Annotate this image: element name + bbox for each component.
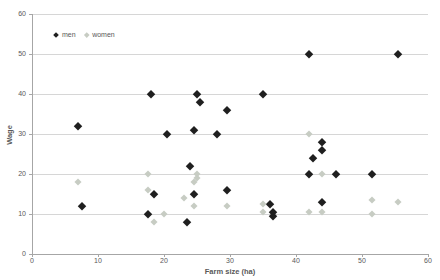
men-data-point-23: [319, 146, 327, 154]
men-diamond-icon: [53, 32, 59, 38]
women-data-point-18: [368, 196, 375, 203]
men-data-point-9: [190, 126, 198, 134]
y-tick-label-10: 10: [18, 210, 28, 218]
y-tick-label-40: 40: [18, 90, 28, 98]
chart-legend: men women: [54, 31, 115, 39]
men-data-point-7: [187, 162, 195, 170]
men-data-point-26: [368, 170, 376, 178]
men-data-point-0: [74, 122, 82, 130]
men-data-point-24: [319, 138, 327, 146]
men-data-point-4: [150, 190, 158, 198]
x-tick-label-30: 30: [226, 257, 234, 265]
men-data-point-20: [305, 50, 313, 58]
y-tick-label-30: 30: [18, 130, 28, 138]
men-data-point-19: [305, 170, 313, 178]
women-diamond-icon: [84, 33, 89, 38]
y-tick-label-60: 60: [18, 10, 28, 18]
men-data-point-16: [266, 200, 274, 208]
women-data-point-0: [75, 178, 82, 185]
men-data-point-5: [163, 130, 171, 138]
men-data-point-22: [319, 198, 327, 206]
y-tick-label-0: 0: [22, 250, 28, 258]
y-tick-label-50: 50: [18, 50, 28, 58]
x-tick-label-20: 20: [160, 257, 168, 265]
women-data-point-16: [319, 170, 326, 177]
legend-label-women: women: [92, 31, 115, 39]
men-data-point-2: [144, 210, 152, 218]
men-data-point-27: [394, 50, 402, 58]
women-data-point-6: [190, 202, 197, 209]
gridline-y-40: [32, 94, 428, 95]
gridline-y-50: [32, 54, 428, 55]
women-data-point-2: [144, 170, 151, 177]
men-data-point-8: [190, 190, 198, 198]
women-data-point-17: [368, 210, 375, 217]
women-data-point-19: [395, 198, 402, 205]
women-data-point-3: [151, 218, 158, 225]
x-tick-label-0: 0: [30, 257, 34, 265]
men-data-point-13: [223, 186, 231, 194]
gridline-y-60: [32, 14, 428, 15]
legend-label-men: men: [62, 31, 76, 39]
y-axis-line: [32, 14, 33, 254]
men-data-point-1: [78, 202, 86, 210]
scatter-chart: men women Wage Farm size (ha) 0102030405…: [0, 0, 440, 280]
men-data-point-10: [193, 90, 201, 98]
men-data-point-11: [196, 98, 204, 106]
y-axis-title: Wage: [5, 125, 14, 145]
women-data-point-4: [160, 210, 167, 217]
men-data-point-25: [332, 170, 340, 178]
women-data-point-5: [180, 194, 187, 201]
men-data-point-12: [213, 130, 221, 138]
x-tick-label-10: 10: [94, 257, 102, 265]
men-data-point-15: [259, 90, 267, 98]
men-data-point-14: [223, 106, 231, 114]
x-tick-label-40: 40: [292, 257, 300, 265]
men-data-point-3: [147, 90, 155, 98]
y-tick-label-20: 20: [18, 170, 28, 178]
legend-item-women: women: [85, 31, 115, 39]
legend-item-men: men: [54, 31, 76, 39]
men-data-point-21: [309, 154, 317, 162]
women-data-point-14: [306, 130, 313, 137]
men-data-point-6: [183, 218, 191, 226]
x-tick-label-60: 60: [424, 257, 432, 265]
x-tick-label-50: 50: [358, 257, 366, 265]
x-axis-title: Farm size (ha): [205, 267, 255, 276]
women-data-point-12: [259, 200, 266, 207]
gridline-y-30: [32, 134, 428, 135]
women-data-point-10: [223, 202, 230, 209]
